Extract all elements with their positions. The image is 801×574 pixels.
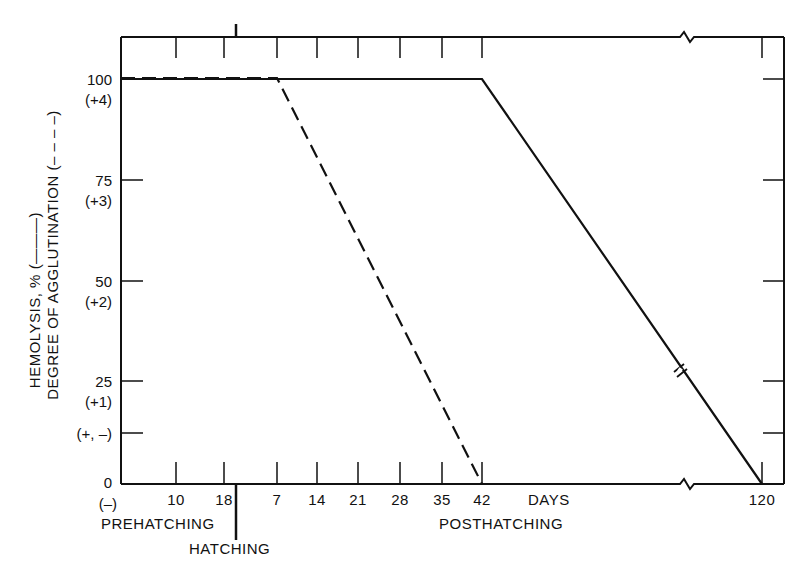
- prehatching-label: PREHATCHING: [101, 515, 215, 532]
- x-tick-28: 28: [391, 491, 409, 508]
- y-tick-0-sub: (–): [99, 495, 117, 512]
- left-ticks: [121, 180, 143, 433]
- y-tick-plusminus: (+, –): [77, 425, 112, 442]
- y-axis-title: HEMOLYSIS, % (———) DEGREE OF AGGLUTINATI…: [26, 110, 61, 400]
- y-tick-100: 100: [87, 71, 112, 88]
- y-tick-25: 25: [95, 373, 112, 390]
- y-tick-100-sub: (+4): [85, 91, 112, 108]
- chart: 100 (+4) 75 (+3) 50 (+2) 25 (+1) (+, –) …: [0, 0, 801, 574]
- plot-frame: [121, 32, 784, 489]
- x-tick-labels: 10 18 7 14 21 28 35 42 120 DAYS: [167, 491, 775, 508]
- x-tick-35: 35: [433, 491, 451, 508]
- y-axis-title-line1: HEMOLYSIS, % (———): [26, 212, 43, 388]
- posthatching-label: POSTHATCHING: [439, 515, 563, 532]
- y-tick-75: 75: [95, 172, 112, 189]
- right-ticks: [763, 79, 784, 433]
- x-axis-title: DAYS: [528, 491, 570, 508]
- series-hemolysis-line: [121, 79, 762, 484]
- x-tick-10: 10: [167, 491, 185, 508]
- hatching-label: HATCHING: [189, 540, 270, 557]
- series-agglutination-line: [121, 78, 482, 484]
- bottom-ticks: [176, 462, 762, 484]
- x-tick-42: 42: [473, 491, 491, 508]
- top-ticks: [176, 37, 762, 58]
- x-tick-7: 7: [273, 491, 282, 508]
- y-tick-labels: 100 (+4) 75 (+3) 50 (+2) 25 (+1) (+, –) …: [77, 71, 117, 512]
- x-region-labels: PREHATCHING HATCHING POSTHATCHING: [101, 515, 563, 557]
- y-tick-0: 0: [104, 474, 112, 491]
- x-tick-18: 18: [215, 491, 233, 508]
- y-axis-title-line2: DEGREE OF AGGLUTINATION (– – – –): [44, 110, 61, 400]
- x-tick-21: 21: [349, 491, 367, 508]
- y-tick-50-sub: (+2): [85, 293, 112, 310]
- y-tick-50: 50: [95, 273, 112, 290]
- y-tick-75-sub: (+3): [85, 192, 112, 209]
- y-tick-25-sub: (+1): [85, 393, 112, 410]
- x-tick-14: 14: [308, 491, 326, 508]
- x-tick-120: 120: [749, 491, 776, 508]
